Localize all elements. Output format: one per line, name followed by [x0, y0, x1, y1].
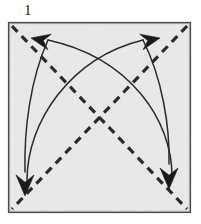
diagram-canvas: [0, 0, 201, 224]
origami-diagram: 1: [0, 0, 201, 224]
